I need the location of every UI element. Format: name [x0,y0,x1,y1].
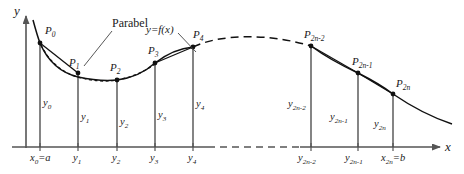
tick-label-x2n-sub: 2n [386,158,393,166]
ordinate-label-y2n-sub: 2n [379,124,386,132]
point-label-p4: P4 [193,29,203,43]
point-label-p3-text: P [148,44,155,56]
y-axis-label: y [14,4,20,17]
point-label-p1: P1 [69,57,79,71]
ordinate-label-y2-sub: 2 [125,122,129,130]
tick-label-2n-1: y2n-1 [345,153,363,166]
tick-label-3-sub: 3 [155,158,159,166]
point-label-p2-sub: 2 [117,67,121,76]
figure-canvas [0,0,464,174]
parabel-leader-line [84,31,112,66]
parabel-annotation: Parabel [112,17,148,29]
ordinate-label-y2n-1: y2n-1 [330,112,348,125]
parabola-approximation [41,45,156,81]
point-label-p4-sub: 4 [200,34,204,43]
function-annotation: y=f(x) [146,24,174,35]
tick-label-2: y2 [112,153,120,166]
point-label-p1-text: P [69,56,76,68]
tick-label-2n-2-sub: 2n-2 [303,158,316,166]
ordinate-label-y3-sub: 3 [163,115,167,123]
tick-label-4: y4 [188,153,196,166]
point-label-p4-text: P [193,28,200,40]
ordinate-label-y0-sub: 0 [48,103,52,111]
point-label-p2n-sub: 2n [403,83,410,92]
ordinate-label-y1: y1 [81,112,89,125]
tick-label-1-sub: 1 [78,158,82,166]
ordinate-label-y2n-2: y2n-2 [288,99,306,112]
ordinate-label-y2n-1-sub: 2n-1 [335,117,348,125]
tick-label-3: y3 [150,153,158,166]
ordinate-label-y2: y2 [120,117,128,130]
chord-polyline [40,43,393,94]
ordinate-lines [40,43,393,147]
point-label-p2n-1-text: P [352,55,359,67]
point-label-p2-text: P [110,61,117,73]
point-label-p2n-2-text: P [304,28,311,40]
tick-label-1: y1 [73,153,81,166]
ordinate-label-y3: y3 [158,110,166,123]
tick-label-2n-2: y2n-2 [298,153,316,166]
ordinate-label-y4-sub: 4 [201,104,205,112]
point-label-p0: P0 [45,25,55,39]
point-label-p2n-2: P2n-2 [304,29,324,43]
node-dots [38,41,396,97]
tick-label-2-sub: 2 [117,158,121,166]
function-curve-break [193,37,311,47]
point-label-p0-text: P [45,24,52,36]
tick-label-4-sub: 4 [193,158,197,166]
ordinate-label-y0: y0 [43,98,51,111]
point-label-p1-sub: 1 [76,62,80,71]
tick-label-x2n-tail: =b [393,152,405,163]
point-label-p2n: P2n [396,78,410,92]
tick-label-x0: x0=a [30,153,51,166]
tick-label-x0-tail: =a [38,152,50,163]
point-label-p2n-1-sub: 2n-1 [359,61,373,70]
point-label-p0-sub: 0 [52,30,56,39]
ordinate-label-y1-sub: 1 [86,117,90,125]
point-label-p3: P3 [148,45,158,59]
ordinate-label-y2n-2-sub: 2n-2 [293,104,306,112]
tick-label-2n-1-sub: 2n-1 [350,158,363,166]
point-label-p2n-2-sub: 2n-2 [311,34,325,43]
point-label-p2: P2 [110,62,120,76]
ordinate-label-y4: y4 [196,99,204,112]
point-label-p2n-text: P [396,77,403,89]
simpson-rule-figure: y x Parabel y=f(x) P0 P1 P2 P3 P4 P2n-2 … [0,0,464,174]
ordinate-label-y2n: y2n [374,119,386,132]
point-label-p3-sub: 3 [155,50,159,59]
point-label-p2n-1: P2n-1 [352,56,372,70]
x-axis-label: x [445,140,451,153]
tick-label-x2n: x2n=b [381,153,405,166]
